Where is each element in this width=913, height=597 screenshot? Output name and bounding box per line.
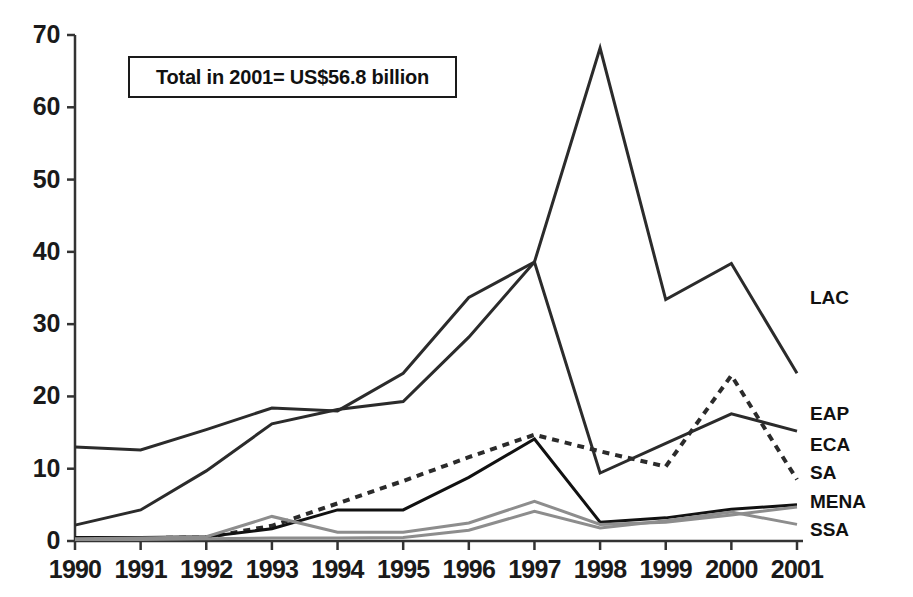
- total-annotation-text: Total in 2001= US$56.8 billion: [156, 66, 429, 89]
- series-line-mena: [75, 439, 797, 537]
- series-line-eap: [75, 262, 797, 525]
- series-label-ssa: SSA: [810, 520, 849, 539]
- y-axis-tick-10: 10: [8, 456, 60, 481]
- y-axis-tick-70: 70: [8, 22, 60, 47]
- total-annotation-box: Total in 2001= US$56.8 billion: [128, 56, 457, 98]
- series-label-lac: LAC: [810, 288, 849, 307]
- y-axis-tick-30: 30: [8, 311, 60, 336]
- y-axis-tick-40: 40: [8, 239, 60, 264]
- x-axis-tick-2001: 2001: [757, 557, 837, 582]
- series-label-eca: ECA: [810, 435, 850, 454]
- y-axis-tick-50: 50: [8, 167, 60, 192]
- series-label-mena: MENA: [810, 492, 866, 511]
- y-axis-tick-60: 60: [8, 94, 60, 119]
- y-axis-tick-20: 20: [8, 383, 60, 408]
- series-line-lac: [75, 48, 797, 450]
- series-label-eap: EAP: [810, 404, 849, 423]
- line-chart: Total in 2001= US$56.8 billion 010203040…: [0, 0, 913, 597]
- y-axis-tick-0: 0: [8, 528, 60, 553]
- series-label-sa: SA: [810, 463, 836, 482]
